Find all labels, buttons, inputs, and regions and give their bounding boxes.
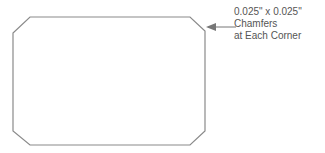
chamfered-rectangle — [13, 17, 205, 145]
callout-location: at Each Corner — [234, 30, 302, 42]
callout-dimension: 0.025" x 0.025" — [234, 6, 302, 18]
callout-chamfers: Chamfers — [234, 18, 302, 30]
arrow-icon — [206, 23, 236, 31]
chamfer-callout-label: 0.025" x 0.025" Chamfers at Each Corner — [234, 6, 302, 42]
